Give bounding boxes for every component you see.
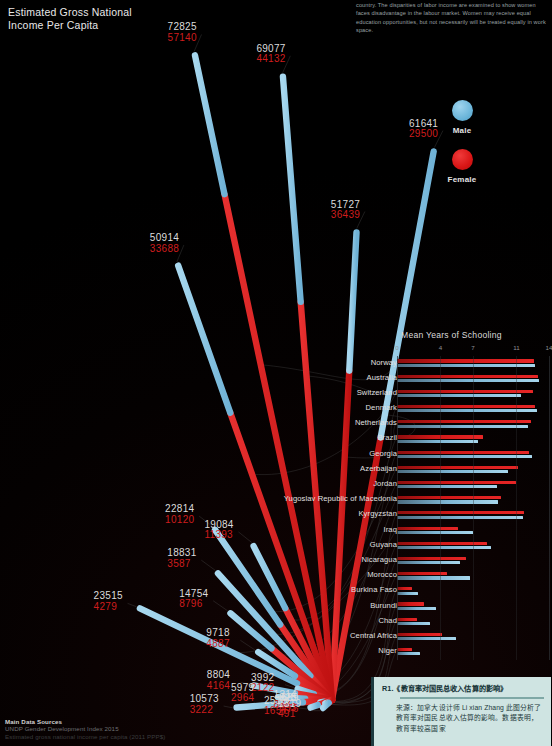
bar-chart-row[interactable]: Morocco — [266, 570, 551, 585]
bar-female — [397, 405, 535, 408]
page-title-line: Income Per Capita — [8, 19, 198, 32]
bar-male — [397, 652, 420, 655]
axis-tick-label: 0 — [395, 344, 398, 351]
label-leader-line — [357, 212, 365, 229]
bar-chart-row[interactable]: Jordan — [266, 479, 551, 494]
bar-male — [397, 394, 521, 397]
bar-country-label: Georgia — [369, 449, 397, 458]
label-leader-line — [240, 640, 255, 650]
bar-female — [397, 527, 458, 530]
bar-female — [397, 359, 534, 362]
bar-chart-row[interactable]: Nicaragua — [266, 554, 551, 569]
annotation-divider — [400, 697, 544, 699]
page-title-line: Estimated Gross National — [8, 6, 198, 19]
bar-chart-row[interactable]: Niger — [266, 646, 551, 661]
label-leader-line — [213, 601, 227, 611]
bar-chart-row[interactable]: Denmark — [266, 403, 551, 418]
bar-country-label: Burundi — [370, 601, 397, 610]
ray-male-segment — [178, 266, 230, 413]
bar-male — [397, 576, 470, 579]
bar-country-label: Guyana — [370, 540, 397, 549]
ray-male-segment — [323, 703, 329, 708]
bar-female — [397, 420, 531, 423]
bar-country-label: Norway — [371, 358, 397, 367]
mean-years-schooling-chart: Mean Years of Schooling 0471114 NorwayAu… — [266, 330, 551, 680]
bar-chart-rows: NorwayAustraliaSwitzerlandDenmarkNetherl… — [266, 357, 551, 661]
bar-chart-row[interactable]: Central Africa — [266, 630, 551, 645]
bar-male — [397, 455, 532, 458]
label-leader-line — [238, 532, 251, 543]
bar-country-label: Chad — [378, 616, 397, 625]
bar-male — [397, 622, 430, 625]
bar-male — [397, 485, 497, 488]
axis-gridline — [549, 356, 550, 660]
axis-tick-label: 4 — [439, 344, 442, 351]
bar-female — [397, 633, 442, 636]
bar-country-label: Netherlands — [355, 418, 397, 427]
bar-chart-row[interactable]: Netherlands — [266, 418, 551, 433]
bar-chart-row[interactable]: Georgia — [266, 448, 551, 463]
annotation-box: R1.《教育率对国民总收入估算的影响》 来源：加拿大设计师 Li xian Zh… — [371, 677, 551, 746]
bar-country-label: Jordan — [373, 479, 397, 488]
bar-chart-row[interactable]: Guyana — [266, 539, 551, 554]
bar-male — [397, 637, 456, 640]
bar-country-label: Switzerland — [357, 388, 397, 397]
legend-female-swatch — [452, 149, 473, 170]
data-sources: Main Data Sources UNDP Gender Developmen… — [5, 718, 225, 741]
bar-chart-row[interactable]: Kyrgyzstan — [266, 509, 551, 524]
bar-male — [397, 440, 478, 443]
ray-male-segment — [283, 77, 301, 302]
bar-chart-row[interactable]: Burkina Faso — [266, 585, 551, 600]
axis-gridline — [397, 356, 398, 660]
axis-gridline — [473, 356, 474, 660]
intro-paragraph: country. The disparities of labor income… — [356, 1, 548, 34]
label-leader-line — [224, 706, 233, 708]
bar-female — [397, 648, 412, 651]
label-leader-line — [283, 56, 291, 73]
bar-chart-row[interactable]: Chad — [266, 615, 551, 630]
bar-chart-row[interactable]: Norway — [266, 357, 551, 372]
axis-tick-label: 11 — [513, 344, 519, 351]
label-leader-line — [194, 34, 201, 51]
label-leader-line — [265, 695, 274, 697]
axis-tick-label: 7 — [471, 344, 474, 351]
sources-line-2: Estimated gross national income per capi… — [5, 733, 225, 741]
bar-country-label: Brazil — [377, 433, 397, 442]
bar-chart-row[interactable]: Switzerland — [266, 387, 551, 402]
ray-male-segment — [278, 697, 305, 698]
bar-chart-row[interactable]: Azerbaijan — [266, 463, 551, 478]
axis-tick-label: 14 — [546, 344, 552, 351]
bar-chart-row[interactable]: Yugoslav Republic of Macedonia — [266, 494, 551, 509]
legend-female-label: Female — [432, 175, 492, 184]
axis-gridline — [440, 356, 441, 660]
bar-male — [397, 592, 418, 595]
label-leader-line — [177, 245, 184, 262]
bar-chart-row[interactable]: Australia — [266, 372, 551, 387]
label-leader-line — [285, 685, 294, 688]
label-leader-line — [199, 516, 213, 526]
bar-male — [397, 607, 436, 610]
bar-country-label: Niger — [378, 646, 397, 655]
bar-country-label: Yugoslav Republic of Macedonia — [284, 494, 397, 503]
bar-female — [397, 466, 518, 469]
bar-chart-row[interactable]: Brazil — [266, 433, 551, 448]
bar-country-label: Kyrgyzstan — [358, 509, 397, 518]
label-leader-line — [298, 708, 307, 709]
bar-female — [397, 496, 501, 499]
axis-gridline — [516, 356, 517, 660]
ray-male-segment — [237, 702, 303, 707]
legend: Male Female — [432, 100, 492, 198]
bar-female — [397, 587, 412, 590]
legend-male-swatch — [452, 100, 473, 121]
ray-male-segment — [195, 55, 225, 194]
bar-chart-row[interactable]: Iraq — [266, 524, 551, 539]
bar-male — [397, 425, 528, 428]
bar-country-label: Burkina Faso — [351, 585, 397, 594]
bar-chart-row[interactable]: Burundi — [266, 600, 551, 615]
bar-female — [397, 390, 533, 393]
bar-country-label: Morocco — [367, 570, 397, 579]
bar-country-label: Iraq — [384, 525, 398, 534]
bar-female — [397, 481, 516, 484]
legend-male-label: Male — [432, 126, 492, 135]
bar-male — [397, 561, 460, 564]
